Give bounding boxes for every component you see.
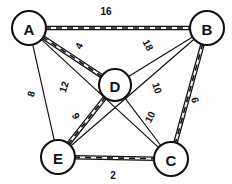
node-label-B: B (202, 20, 213, 37)
edge-hatch (175, 43, 203, 143)
edge-rail-inner (177, 44, 205, 144)
edge-EC[interactable] (74, 156, 155, 161)
edge-AB[interactable] (45, 26, 191, 29)
edge-BE[interactable] (70, 38, 195, 146)
edge-line (70, 38, 195, 146)
node-label-C: C (166, 151, 177, 168)
edge-weight-AB: 16 (100, 6, 111, 17)
node-label-E: E (53, 149, 63, 166)
edge-AC[interactable] (41, 39, 159, 148)
node-label-D: D (110, 77, 121, 94)
edge-rail-outer (41, 38, 101, 78)
edge-weight-EC: 2 (110, 170, 116, 181)
edge-hatch (74, 157, 155, 158)
edge-line (41, 39, 159, 148)
edge-line (128, 36, 194, 77)
edge-BC[interactable] (174, 43, 205, 144)
edge-AD[interactable] (41, 35, 103, 78)
node-label-A: A (24, 20, 35, 37)
edge-rail-inner (69, 98, 107, 146)
graph-diagram: ABDEC164128181069102 (0, 0, 232, 184)
edge-BD[interactable] (128, 36, 194, 77)
edge-rail-outer (174, 43, 202, 143)
edge-hatch (42, 37, 102, 77)
